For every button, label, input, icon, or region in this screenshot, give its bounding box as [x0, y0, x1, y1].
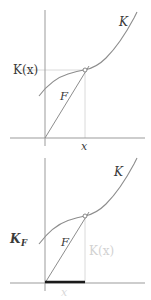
bottom-x-axis-label: x — [61, 286, 68, 299]
figure-container: K K(x) F x K KF F — [0, 0, 151, 300]
bottom-panel: K KF F K(x) x — [9, 158, 145, 299]
bottom-ghost-value-label-Kx: K(x) — [89, 244, 114, 258]
bottom-tangency-point-marker — [83, 214, 87, 218]
bottom-left-label-KF-main: K — [9, 232, 21, 246]
bottom-curve-label-K: K — [113, 165, 124, 179]
top-tangency-point-marker — [83, 68, 87, 72]
top-panel: K K(x) F x — [10, 10, 145, 153]
top-chord-label-F: F — [59, 89, 69, 103]
bottom-left-label-KF-subscript: F — [20, 238, 28, 248]
figure-svg: K K(x) F x K KF F — [0, 0, 151, 300]
top-value-label-Kx: K(x) — [13, 63, 38, 77]
bottom-left-label-KF: KF — [9, 232, 28, 248]
bottom-chord-label-F: F — [60, 235, 70, 249]
top-x-axis-label: x — [81, 140, 88, 153]
top-curve-label-K: K — [118, 15, 129, 29]
